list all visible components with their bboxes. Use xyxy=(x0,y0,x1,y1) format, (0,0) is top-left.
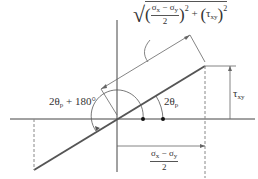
hyp-fraction: σx − σy2 xyxy=(151,3,179,26)
diagram-canvas xyxy=(0,0,258,179)
denominator: 2 xyxy=(163,16,168,26)
sigma-fraction: σx − σy2 xyxy=(150,149,178,172)
angle-text: 2θ xyxy=(49,95,60,107)
diameter-line xyxy=(34,66,205,170)
sqrt-symbol: √ xyxy=(133,2,145,27)
plus: + xyxy=(189,7,201,19)
tau-label: τxy xyxy=(233,88,244,101)
angle-text: 2θ xyxy=(164,95,175,107)
angle-label-large: 2θp + 180° xyxy=(49,96,96,109)
hyp-arrow-right-icon xyxy=(184,35,190,40)
sub-xy: xy xyxy=(211,13,218,21)
sub-y: y xyxy=(175,6,179,14)
sigma-arrowhead-icon xyxy=(200,144,205,148)
denominator: 2 xyxy=(162,162,167,172)
tau-arrowhead-icon xyxy=(228,66,232,71)
sigma-label: σx − σy2 xyxy=(150,149,178,172)
minus: − xyxy=(159,148,169,158)
hypotenuse-dimension-line xyxy=(101,35,190,89)
angle-arc-small xyxy=(156,96,163,119)
angle-suffix: + 180° xyxy=(63,95,96,107)
point-dot xyxy=(161,117,165,121)
point-dot xyxy=(141,117,145,121)
hypotenuse-formula: √(σx − σy2)2 + (τxy)2 xyxy=(133,1,227,26)
sub-y: y xyxy=(174,152,178,160)
minus: − xyxy=(160,2,170,12)
radicand: (σx − σy2)2 + (τxy)2 xyxy=(145,1,227,26)
hypotenuse-extension-right xyxy=(190,35,205,62)
sub-xy: xy xyxy=(237,93,244,101)
exponent: 2 xyxy=(223,4,227,13)
hyp-arrow-left-icon xyxy=(101,84,107,89)
angle-sub: p xyxy=(175,101,179,109)
hypotenuse-extension-left xyxy=(101,89,117,115)
formula-leader xyxy=(144,40,150,62)
angle-label-small: 2θp xyxy=(164,96,178,109)
